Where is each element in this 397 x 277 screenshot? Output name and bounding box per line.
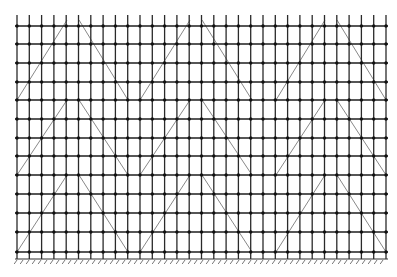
coupler-node [237, 250, 240, 253]
coupler-node [114, 98, 117, 101]
coupler-node [28, 24, 31, 27]
coupler-node [372, 211, 375, 214]
coupler-node [77, 61, 80, 64]
coupler-node [200, 98, 203, 101]
coupler-node [224, 136, 227, 139]
coupler-node [298, 80, 301, 83]
coupler-node [175, 61, 178, 64]
coupler-node [311, 61, 314, 64]
ground-hatch [260, 260, 263, 264]
ground-hatch [20, 260, 23, 264]
ground-hatch [182, 260, 185, 264]
coupler-node [360, 250, 363, 253]
coupler-node [311, 250, 314, 253]
coupler-node [65, 24, 68, 27]
coupler-node [274, 80, 277, 83]
ground-hatch [332, 260, 335, 264]
coupler-node [163, 173, 166, 176]
coupler-node [101, 250, 104, 253]
coupler-node [89, 192, 92, 195]
coupler-node [200, 42, 203, 45]
coupler-node [311, 136, 314, 139]
coupler-node [274, 173, 277, 176]
ground-hatch [314, 260, 317, 264]
ground-hatch [164, 260, 167, 264]
coupler-node [347, 117, 350, 120]
coupler-node [52, 230, 55, 233]
coupler-node [286, 136, 289, 139]
coupler-node [40, 98, 43, 101]
coupler-node [323, 136, 326, 139]
coupler-node [360, 117, 363, 120]
ground-hatch [188, 260, 191, 264]
coupler-node [311, 42, 314, 45]
coupler-node [28, 42, 31, 45]
coupler-node [188, 136, 191, 139]
coupler-node [188, 98, 191, 101]
coupler-node [101, 173, 104, 176]
coupler-node [286, 230, 289, 233]
coupler-node [347, 42, 350, 45]
coupler-node [65, 117, 68, 120]
coupler-node [40, 61, 43, 64]
coupler-node [311, 80, 314, 83]
coupler-node [114, 136, 117, 139]
coupler-node [101, 154, 104, 157]
coupler-node [384, 98, 387, 101]
coupler-node [52, 42, 55, 45]
coupler-node [212, 192, 215, 195]
coupler-node [15, 211, 18, 214]
ground-hatch [152, 260, 155, 264]
coupler-node [200, 211, 203, 214]
coupler-node [114, 42, 117, 45]
ground-hatch [62, 260, 65, 264]
coupler-node [212, 230, 215, 233]
coupler-node [200, 136, 203, 139]
coupler-node [114, 173, 117, 176]
coupler-node [40, 192, 43, 195]
coupler-node [89, 154, 92, 157]
coupler-node [163, 42, 166, 45]
coupler-node [65, 61, 68, 64]
coupler-node [101, 24, 104, 27]
coupler-node [261, 250, 264, 253]
coupler-node [360, 98, 363, 101]
coupler-node [335, 98, 338, 101]
coupler-node [261, 80, 264, 83]
coupler-node [163, 24, 166, 27]
coupler-node [163, 117, 166, 120]
coupler-node [286, 42, 289, 45]
coupler-node [28, 173, 31, 176]
ground-hatch [50, 260, 53, 264]
coupler-node [372, 173, 375, 176]
coupler-node [323, 42, 326, 45]
coupler-node [347, 250, 350, 253]
coupler-node [28, 192, 31, 195]
coupler-node [28, 230, 31, 233]
coupler-node [28, 61, 31, 64]
coupler-node [261, 154, 264, 157]
coupler-node [151, 117, 154, 120]
coupler-node [89, 211, 92, 214]
coupler-node [224, 117, 227, 120]
coupler-node [311, 154, 314, 157]
coupler-node [286, 61, 289, 64]
coupler-node [335, 61, 338, 64]
coupler-node [151, 192, 154, 195]
coupler-node [52, 117, 55, 120]
coupler-node [335, 136, 338, 139]
coupler-node [274, 230, 277, 233]
coupler-node [384, 154, 387, 157]
coupler-node [175, 42, 178, 45]
ground-hatch [230, 260, 233, 264]
coupler-node [224, 98, 227, 101]
coupler-node [77, 24, 80, 27]
coupler-node [15, 173, 18, 176]
ground-hatch [38, 260, 41, 264]
coupler-node [274, 117, 277, 120]
coupler-node [163, 98, 166, 101]
coupler-node [372, 136, 375, 139]
coupler-node [237, 61, 240, 64]
ground-hatch [68, 260, 71, 264]
coupler-node [126, 230, 129, 233]
